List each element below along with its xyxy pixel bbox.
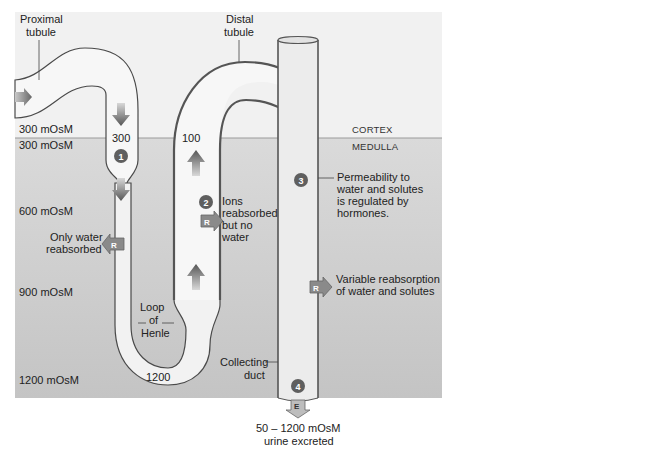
- svg-text:is regulated by: is regulated by: [337, 195, 409, 207]
- ascending-value: 100: [182, 132, 200, 144]
- svg-text:Collecting: Collecting: [220, 356, 268, 368]
- annotation-only-water: Only water reabsorbed: [46, 231, 103, 255]
- svg-text:Variable reabsorption: Variable reabsorption: [336, 273, 440, 285]
- step-badge-4: 4: [291, 379, 305, 393]
- svg-text:R: R: [111, 241, 117, 250]
- svg-text:of: of: [149, 314, 159, 326]
- step-badge-1: 1: [114, 149, 128, 163]
- collecting-duct-shape: [278, 40, 318, 398]
- svg-text:3: 3: [299, 176, 304, 186]
- svg-text:50 – 1200 mOsM: 50 – 1200 mOsM: [256, 422, 340, 434]
- annotation-variable-reabsorption: Variable reabsorption of water and solut…: [336, 273, 440, 297]
- svg-text:of water and solutes: of water and solutes: [336, 285, 435, 297]
- svg-text:Proximal: Proximal: [20, 13, 63, 25]
- svg-text:water: water: [221, 231, 249, 243]
- annotation-urine-output: 50 – 1200 mOsM urine excreted: [256, 422, 340, 447]
- svg-text:1200 mOsM: 1200 mOsM: [19, 374, 79, 386]
- svg-text:1: 1: [119, 152, 124, 162]
- svg-text:900 mOsM: 900 mOsM: [19, 286, 73, 298]
- svg-text:R: R: [204, 218, 210, 227]
- svg-text:water and solutes: water and solutes: [336, 183, 424, 195]
- svg-text:Only water: Only water: [50, 231, 103, 243]
- svg-text:urine excreted: urine excreted: [264, 435, 334, 447]
- svg-text:Ions: Ions: [222, 195, 243, 207]
- svg-text:Henle: Henle: [141, 327, 170, 339]
- loop-bottom-value: 1200: [146, 371, 170, 383]
- svg-text:tubule: tubule: [224, 26, 254, 38]
- svg-text:300 mOsM: 300 mOsM: [19, 123, 73, 135]
- svg-text:600 mOsM: 600 mOsM: [19, 205, 73, 217]
- collecting-duct-top: [278, 37, 318, 44]
- medulla-label: MEDULLA: [352, 141, 399, 152]
- cortex-label: CORTEX: [352, 124, 393, 135]
- svg-text:but no: but no: [222, 219, 253, 231]
- svg-text:4: 4: [296, 382, 301, 392]
- svg-text:Distal: Distal: [226, 13, 254, 25]
- step-badge-2: 2: [199, 195, 213, 209]
- svg-text:E: E: [294, 402, 300, 411]
- svg-text:tubule: tubule: [26, 26, 56, 38]
- svg-text:2: 2: [204, 198, 209, 208]
- svg-text:Loop: Loop: [140, 301, 164, 313]
- svg-text:300 mOsM: 300 mOsM: [19, 139, 73, 151]
- svg-text:reabsorbed: reabsorbed: [222, 207, 278, 219]
- descending-value: 300: [112, 132, 130, 144]
- svg-text:hormones.: hormones.: [337, 207, 389, 219]
- svg-text:reabsorbed: reabsorbed: [46, 243, 102, 255]
- nephron-diagram: Proximal tubule Distal tubule CORTEX MED…: [0, 0, 661, 458]
- svg-text:duct: duct: [244, 369, 265, 381]
- excretion-marker: E: [286, 400, 310, 418]
- svg-text:Permeability to: Permeability to: [337, 171, 410, 183]
- step-badge-3: 3: [294, 173, 308, 187]
- distal-tubule-label: Distal tubule: [224, 13, 254, 38]
- svg-text:R: R: [313, 284, 319, 293]
